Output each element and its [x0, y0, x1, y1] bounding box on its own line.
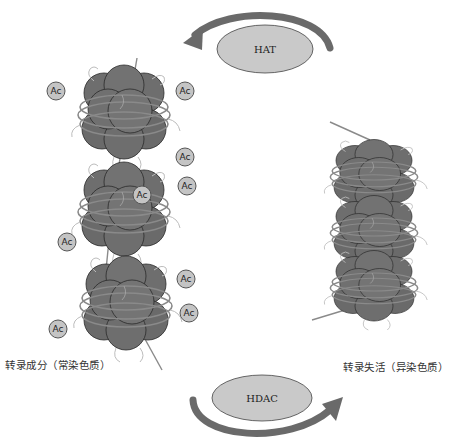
heterochromatin-label: 转录失活（异染色质） [343, 359, 448, 374]
svg-text:Ac: Ac [184, 308, 195, 318]
hdac-label: HDAC [246, 393, 278, 404]
acetyl-group: Ac [133, 186, 151, 204]
acetyl-group: Ac [176, 148, 194, 166]
euchromatin-nucleosome [72, 162, 180, 268]
hat-label: HAT [254, 44, 276, 55]
euchromatin-label: 转录成分（常染色质） [5, 357, 110, 372]
svg-text:Ac: Ac [180, 86, 191, 96]
hat-enzyme: HAT [217, 25, 313, 73]
svg-text:Ac: Ac [51, 86, 62, 96]
svg-text:Ac: Ac [137, 190, 148, 200]
acetyl-group: Ac [177, 270, 195, 288]
euchromatin-nucleosome [74, 256, 182, 362]
acetyl-group: Ac [49, 320, 67, 338]
chromatin-diagram: HAT HDAC Ac Ac Ac Ac Ac Ac Ac Ac Ac [0, 0, 453, 443]
acetyl-group: Ac [176, 82, 194, 100]
svg-text:Ac: Ac [181, 274, 192, 284]
euchromatin-nucleosome [72, 65, 180, 171]
svg-text:Ac: Ac [182, 181, 193, 191]
acetyl-group: Ac [178, 177, 196, 195]
svg-text:Ac: Ac [180, 152, 191, 162]
svg-text:Ac: Ac [62, 237, 73, 247]
acetyl-group: Ac [180, 304, 198, 322]
hdac-enzyme: HDAC [212, 375, 312, 421]
acetyl-group: Ac [47, 82, 65, 100]
heterochromatin-nucleosome [324, 251, 427, 331]
svg-text:Ac: Ac [53, 324, 64, 334]
acetyl-group: Ac [58, 233, 76, 251]
